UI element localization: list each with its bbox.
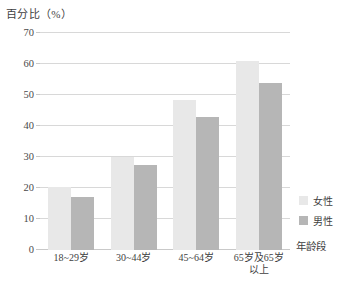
y-tick-label: 40: [24, 120, 35, 131]
bar: [48, 187, 71, 250]
x-tick-label: 30~44岁: [103, 252, 165, 276]
x-tick-label-line: 45~64岁: [165, 252, 227, 264]
y-tick-label: 50: [24, 89, 35, 100]
bar-group: [236, 33, 282, 250]
x-tick-label-line: 30~44岁: [103, 252, 165, 264]
bar-chart: 百分比（%） 010203040506070 18~29岁30~44岁45~64…: [0, 0, 343, 287]
y-tick-label: 10: [24, 213, 35, 224]
bar: [134, 165, 157, 250]
bar: [196, 117, 219, 250]
y-tick-label: 20: [24, 182, 35, 193]
legend-label: 男性: [313, 213, 333, 228]
legend-swatch-icon: [299, 216, 308, 225]
x-tick-label: 18~29岁: [40, 252, 102, 276]
legend-item[interactable]: 女性: [299, 193, 333, 208]
y-axis-title: 百分比（%）: [6, 5, 72, 21]
bar-group: [111, 33, 157, 250]
bar: [173, 100, 196, 250]
y-tick-label: 30: [24, 151, 35, 162]
legend-swatch-icon: [299, 196, 308, 205]
bar: [71, 197, 94, 250]
x-tick-label-line: 65岁及65岁: [228, 252, 290, 264]
bar: [259, 83, 282, 250]
x-tick-label-line: 18~29岁: [40, 252, 102, 264]
x-axis-title: 年龄段: [296, 238, 326, 253]
x-tick-label: 65岁及65岁以上: [228, 252, 290, 276]
x-tick-label: 45~64岁: [165, 252, 227, 276]
bar-group: [173, 33, 219, 250]
y-tick-label: 0: [29, 244, 34, 255]
plot-area: 010203040506070: [40, 33, 290, 250]
legend: 女性男性: [299, 193, 333, 233]
bar-groups: [40, 33, 290, 250]
legend-label: 女性: [313, 193, 333, 208]
y-tick-label: 60: [24, 58, 35, 69]
legend-item[interactable]: 男性: [299, 213, 333, 228]
bar: [111, 157, 134, 250]
x-axis-tick-labels: 18~29岁30~44岁45~64岁65岁及65岁以上: [40, 252, 290, 276]
bar-group: [48, 33, 94, 250]
x-tick-label-line: 以上: [228, 264, 290, 276]
bar: [236, 61, 259, 250]
y-tick-label: 70: [24, 27, 35, 38]
